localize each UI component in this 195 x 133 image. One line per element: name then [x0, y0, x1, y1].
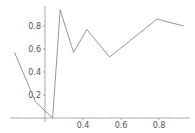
x-tick-label: 0.8 [153, 121, 166, 130]
y-tick-label: 0.8 [28, 22, 41, 31]
x-tick-label: 0.4 [77, 121, 90, 130]
y-tick-label: 0.2 [28, 91, 41, 100]
y-axis: 0.20.40.60.8 [28, 6, 45, 122]
x-tick-label: 0.6 [115, 121, 128, 130]
y-tick-label: 0.4 [28, 68, 41, 77]
x-axis: 0.40.60.8 [10, 118, 190, 130]
line-chart: 0.40.60.8 0.20.40.60.8 [0, 0, 195, 133]
y-tick-label: 0.6 [28, 45, 41, 54]
